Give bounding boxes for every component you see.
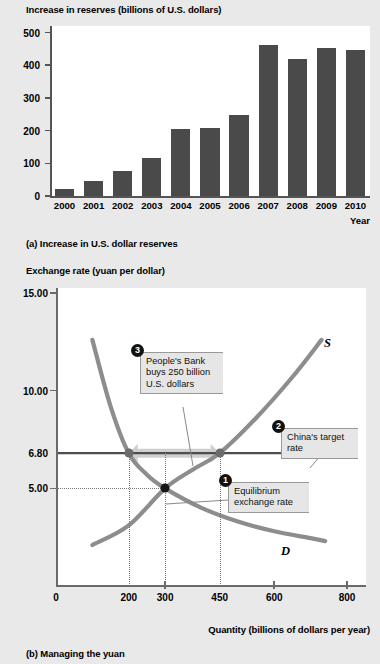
bar-chart-y-tick [45, 97, 51, 99]
bar-chart-x-tick-label: 2008 [283, 200, 312, 211]
bar-chart-y-tick-label: 200 [10, 125, 40, 136]
guide-line-q300 [165, 453, 167, 586]
bar-2002 [113, 171, 132, 196]
sd-x-tick [273, 581, 275, 589]
bar-chart-y-tick-label: 100 [10, 158, 40, 169]
sd-y-tick-label: 15.00 [23, 288, 48, 299]
bar-chart-y-tick-label: 300 [10, 92, 40, 103]
bar-chart-y-axis [50, 26, 52, 197]
bar-chart-y-tick-label: 0 [10, 191, 40, 202]
sd-marker-q450 [215, 449, 224, 458]
bar-2001 [84, 181, 103, 196]
bar-chart-x-tick-label: 2006 [225, 200, 254, 211]
bar-2010 [346, 50, 365, 196]
panel-b-axis-title: Exchange rate (yuan per dollar) [26, 265, 165, 276]
bar-chart-x-tick-label: 2000 [50, 200, 79, 211]
bar-2007 [259, 45, 278, 196]
bar-chart-x-axis-title: Year [350, 215, 370, 226]
bar-2006 [229, 115, 248, 196]
demand-curve-label: D [281, 544, 290, 559]
bar-chart-y-tick-label: 500 [10, 27, 40, 38]
bar-chart-x-tick-label: 2010 [341, 200, 370, 211]
sd-x-tick-label: 450 [211, 592, 228, 603]
bar-chart-x-tick-label: 2002 [108, 200, 137, 211]
bar-2003 [142, 158, 161, 196]
callout-badge-3[interactable]: 3 [131, 344, 144, 357]
guide-line-q200 [129, 453, 131, 586]
supply-curve-label: S [324, 336, 331, 351]
figure-page: Increase in reserves (billions of U.S. d… [0, 0, 380, 664]
callout-badge-1[interactable]: 1 [219, 474, 232, 487]
sd-x-tick-label: 0 [53, 592, 59, 603]
sd-y-tick-label: 5.00 [29, 483, 48, 494]
sd-y-tick [50, 292, 57, 294]
sd-y-tick-label: 6.80 [29, 448, 48, 459]
callout-people-bank-buys[interactable]: People's Bank buys 250 billion U.S. doll… [140, 352, 223, 394]
bar-chart-x-tick-label: 2007 [254, 200, 283, 211]
panel-a-caption: (a) Increase in U.S. dollar reserves [26, 238, 178, 249]
sd-y-tick [50, 390, 57, 392]
bar-2009 [317, 48, 336, 196]
bar-chart-plot-area [50, 26, 370, 196]
callout-china-target-rate[interactable]: China's target rate [281, 428, 358, 459]
sd-marker-equilibrium [161, 484, 170, 493]
panel-b-caption: (b) Managing the yuan [26, 648, 125, 659]
callout-badge-2[interactable]: 2 [272, 420, 285, 433]
guide-line-q450 [220, 453, 222, 586]
sd-x-axis [56, 585, 366, 587]
bar-2008 [288, 59, 307, 196]
bar-chart-x-tick-label: 2003 [137, 200, 166, 211]
bar-chart-y-tick [45, 130, 51, 132]
sd-x-tick [346, 581, 348, 589]
sd-y-tick-label: 10.00 [23, 385, 48, 396]
callout-equilibrium-rate[interactable]: Equilibrium exchange rate [228, 482, 309, 513]
bar-chart-y-tick-label: 400 [10, 60, 40, 71]
sd-x-tick-label: 600 [266, 592, 283, 603]
bar-chart-x-axis [50, 196, 370, 198]
bar-chart-y-tick [45, 163, 51, 165]
bar-chart-y-tick [45, 32, 51, 34]
sd-x-tick-label: 200 [120, 592, 137, 603]
sd-x-axis-title: Quantity (billions of dollars per year) [208, 624, 370, 635]
bar-chart-x-tick-label: 2001 [79, 200, 108, 211]
bar-chart-x-tick-label: 2009 [312, 200, 341, 211]
bar-chart-x-tick-label: 2004 [166, 200, 195, 211]
sd-y-axis [56, 288, 58, 587]
sd-x-tick-label: 300 [157, 592, 174, 603]
sd-marker-q200 [124, 449, 133, 458]
bar-chart-y-tick [45, 64, 51, 66]
bar-2005 [200, 128, 219, 196]
bar-chart-x-tick-label: 2005 [195, 200, 224, 211]
bar-2004 [171, 129, 190, 196]
guide-line-equilibrium-rate [50, 488, 165, 489]
panel-a-axis-title: Increase in reserves (billions of U.S. d… [26, 4, 221, 15]
bar-chart-y-tick [45, 195, 51, 197]
sd-x-tick-label: 800 [339, 592, 356, 603]
